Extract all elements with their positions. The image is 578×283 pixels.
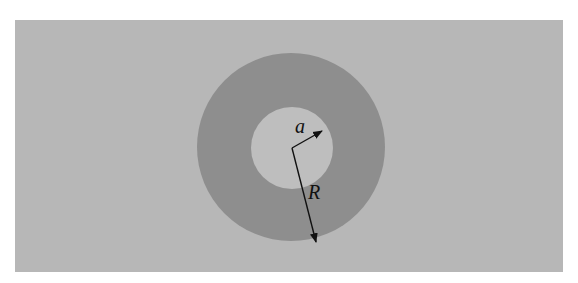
outer-radius-label: R	[307, 181, 320, 203]
inner-radius-label: a	[295, 115, 305, 137]
annulus-diagram: a R	[0, 0, 578, 283]
